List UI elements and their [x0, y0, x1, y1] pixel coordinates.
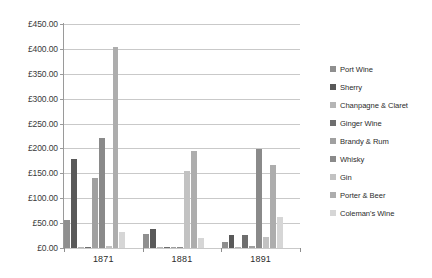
legend-item-label: Whisky: [340, 155, 364, 164]
legend-item[interactable]: Sherry: [330, 78, 430, 96]
chart-legend: Port WineSherryChanpagne & ClaretGinger …: [330, 60, 430, 222]
legend-item[interactable]: Chanpagne & Claret: [330, 96, 430, 114]
y-axis-tick-label: £350.00: [28, 69, 58, 79]
bar[interactable]: [277, 217, 283, 248]
y-axis-tick-label: £100.00: [28, 193, 58, 203]
bar[interactable]: [198, 238, 204, 248]
gridline: [64, 248, 300, 249]
bar[interactable]: [164, 247, 170, 248]
plot-area: £450.00£400.00£350.00£300.00£250.00£200.…: [64, 24, 300, 248]
legend-swatch-icon: [330, 174, 336, 180]
legend-swatch-icon: [330, 120, 336, 126]
legend-item-label: Port Wine: [340, 65, 373, 74]
x-axis-tick-label: 1891: [221, 254, 300, 264]
bar[interactable]: [99, 138, 105, 249]
legend-item[interactable]: Port Wine: [330, 60, 430, 78]
bar[interactable]: [106, 246, 112, 248]
legend-item[interactable]: Ginger Wine: [330, 114, 430, 132]
bar[interactable]: [71, 159, 77, 248]
bar[interactable]: [184, 171, 190, 248]
bar[interactable]: [171, 247, 177, 248]
legend-item-label: Coleman's Wine: [340, 209, 394, 218]
legend-item[interactable]: Gin: [330, 168, 430, 186]
legend-item-label: Ginger Wine: [340, 119, 382, 128]
legend-swatch-icon: [330, 66, 336, 72]
bar[interactable]: [242, 235, 248, 248]
y-axis-tick-label: £450.00: [28, 19, 58, 29]
x-axis-tick-label: 1881: [143, 254, 222, 264]
bar[interactable]: [229, 235, 235, 248]
bar-group-1891: [222, 24, 284, 248]
bar[interactable]: [263, 237, 269, 248]
legend-item[interactable]: Whisky: [330, 150, 430, 168]
x-tick-mark: [221, 248, 222, 252]
bar[interactable]: [235, 247, 241, 248]
y-axis-tick-label: £250.00: [28, 119, 58, 129]
legend-item-label: Porter & Beer: [340, 191, 385, 200]
legend-swatch-icon: [330, 138, 336, 144]
bar[interactable]: [113, 47, 119, 248]
y-axis-tick-label: £150.00: [28, 168, 58, 178]
y-axis-tick-label: £300.00: [28, 94, 58, 104]
x-tick-mark: [300, 248, 301, 252]
y-axis-tick-label: £50.00: [33, 218, 58, 228]
legend-swatch-icon: [330, 156, 336, 162]
bar[interactable]: [150, 229, 156, 248]
x-tick-mark: [143, 248, 144, 252]
bar[interactable]: [85, 247, 91, 248]
x-tick-mark: [64, 248, 65, 252]
bar[interactable]: [222, 242, 228, 248]
bar[interactable]: [143, 234, 149, 248]
bar[interactable]: [177, 247, 183, 248]
legend-item-label: Gin: [340, 173, 352, 182]
bar[interactable]: [270, 165, 276, 248]
legend-item-label: Sherry: [340, 83, 362, 92]
bar-group-1881: [143, 24, 205, 248]
bar[interactable]: [119, 232, 125, 248]
legend-swatch-icon: [330, 210, 336, 216]
bar[interactable]: [157, 247, 163, 248]
legend-swatch-icon: [330, 102, 336, 108]
legend-swatch-icon: [330, 84, 336, 90]
legend-item[interactable]: Brandy & Rum: [330, 132, 430, 150]
bar[interactable]: [92, 178, 98, 248]
legend-item-label: Chanpagne & Claret: [340, 101, 408, 110]
bar[interactable]: [249, 246, 255, 248]
x-axis-tick-label: 1871: [64, 254, 143, 264]
bar-chart: £450.00£400.00£350.00£300.00£250.00£200.…: [0, 0, 432, 278]
legend-swatch-icon: [330, 192, 336, 198]
legend-item-label: Brandy & Rum: [340, 137, 389, 146]
bar[interactable]: [191, 151, 197, 248]
bar[interactable]: [64, 220, 70, 248]
bar-group-1871: [64, 24, 126, 248]
legend-item[interactable]: Porter & Beer: [330, 186, 430, 204]
y-axis-tick-label: £400.00: [28, 44, 58, 54]
y-axis-tick-label: £0.00: [37, 243, 58, 253]
bar[interactable]: [78, 247, 84, 248]
y-axis-tick-label: £200.00: [28, 143, 58, 153]
bar[interactable]: [256, 149, 262, 248]
legend-item[interactable]: Coleman's Wine: [330, 204, 430, 222]
